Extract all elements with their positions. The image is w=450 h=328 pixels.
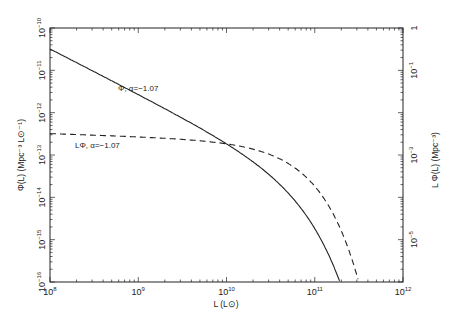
tick-label: 1 (409, 25, 419, 30)
tick-label: 10−13 (36, 144, 47, 165)
plot-frame (50, 28, 403, 282)
tick-label: 10−5 (408, 231, 419, 249)
luminosity-function-chart: 10810910101011101210−1610−1510−1410−1310… (0, 0, 450, 328)
annotation-phi: Φ, α=−1.07 (118, 84, 159, 93)
y-axis-left-title: Φ(L) (Mpc⁻³ L⊙⁻¹) (16, 119, 26, 191)
axis-ticks (50, 28, 403, 282)
tick-label: 10−1 (408, 61, 419, 79)
tick-label: 10−15 (36, 229, 47, 250)
x-axis-title: L (L⊙) (213, 299, 238, 309)
tick-label: 109 (132, 286, 146, 297)
tick-labels: 10810910101011101210−1610−1510−1410−1310… (36, 17, 419, 297)
tick-label: 10−16 (36, 271, 47, 292)
tick-label: 10−11 (36, 60, 47, 80)
phi-curve-solid (50, 49, 340, 281)
tick-label: 10−3 (408, 146, 419, 164)
tick-label: 10−10 (36, 17, 47, 38)
tick-label: 10−14 (36, 187, 47, 208)
tick-label: 10−12 (36, 102, 47, 123)
tick-label: 1010 (218, 286, 235, 297)
annotation-lphi: LΦ, α=−1.07 (75, 141, 120, 150)
tick-label: 1012 (395, 286, 412, 297)
lphi-curve-dashed (50, 134, 358, 280)
tick-label: 1011 (307, 286, 324, 297)
y-axis-right-title: L Φ(L) (Mpc⁻³) (430, 132, 440, 188)
